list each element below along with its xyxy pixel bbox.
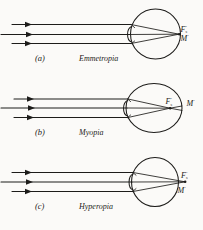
refracted-top-a <box>131 25 179 35</box>
ray-bottom-arrowhead <box>25 41 32 47</box>
panel-b-myopia: F ' s M ' (b) Myopia <box>1 84 195 138</box>
panel-c-name: Hyperopia <box>78 202 113 211</box>
ray-middle-arrowhead <box>26 179 33 185</box>
macula-prime-a: ' <box>187 34 189 39</box>
focal-point-marker-b <box>169 107 172 110</box>
ray-middle-arrowhead <box>28 105 35 111</box>
panel-c-index: (c) <box>35 201 45 211</box>
panel-a-name: Emmetropia <box>78 54 118 63</box>
panel-b-refracted-rays <box>127 99 182 118</box>
ray-bottom-arrowhead <box>25 189 32 195</box>
panel-a-index: (a) <box>35 53 45 63</box>
ray-top-arrowhead <box>27 96 34 102</box>
panel-a-labels: F ' s M ' <box>180 25 190 44</box>
optics-eye-figure: F ' s M ' (a) Emmetropia <box>0 0 203 230</box>
panel-c-rays <box>1 170 133 195</box>
panel-a-refracted-rays <box>130 25 179 44</box>
ray-bottom-arrowhead <box>27 115 34 121</box>
refracted-bottom-b <box>128 108 170 117</box>
focal-point-subscript-b: s <box>170 102 172 107</box>
post-focus-bottom-b <box>170 108 182 110</box>
macula-prime-b: ' <box>193 99 195 104</box>
ray-top-arrowhead <box>25 170 32 176</box>
refracted-top-b <box>128 99 170 108</box>
figure-canvas: F ' s M ' (a) Emmetropia <box>0 0 203 230</box>
macula-prime-c: ' <box>184 186 186 191</box>
panel-b-name: Myopia <box>78 128 103 137</box>
panel-a-emmetropia: F ' s M ' (a) Emmetropia <box>1 9 189 63</box>
focal-point-subscript-c: s <box>186 175 188 180</box>
ray-top-arrowhead <box>25 22 32 28</box>
focal-point-marker-c <box>184 181 187 184</box>
panel-b-rays <box>1 96 128 120</box>
panel-c-hyperopia: F ' s M ' (c) Hyperopia <box>1 158 188 212</box>
refracted-bottom-a <box>131 34 179 43</box>
panel-b-index: (b) <box>35 127 45 137</box>
panel-a-rays <box>1 22 131 47</box>
ray-middle-arrowhead <box>26 32 33 38</box>
